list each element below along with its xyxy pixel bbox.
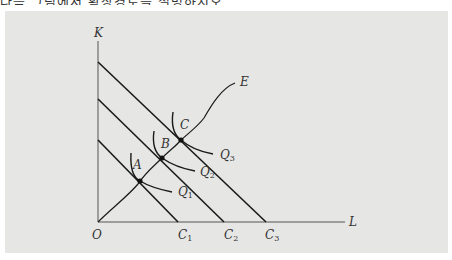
isoquant-q3 — [172, 112, 213, 154]
isocost-label-c3: C3 — [265, 229, 279, 243]
k-axis-label: K — [94, 27, 103, 39]
point-label-c: C — [180, 119, 189, 131]
isocost-label-c2: C2 — [224, 229, 238, 243]
expansion-path-label-e: E — [240, 76, 249, 88]
tangency-point-c — [178, 137, 183, 142]
isoquant-label-q3: Q3 — [220, 149, 235, 163]
isoquant-q2 — [153, 131, 195, 171]
point-label-a: A — [133, 159, 142, 171]
l-axis-label: L — [349, 216, 357, 228]
origin-label: O — [92, 229, 102, 241]
tangency-point-b — [159, 155, 164, 160]
isoquant-label-q2: Q2 — [200, 166, 215, 180]
isoquant-label-q1: Q1 — [178, 186, 193, 200]
point-label-b: B — [161, 138, 170, 150]
isocost-label-c1: C1 — [178, 229, 192, 243]
expansion-path-diagram — [0, 0, 452, 260]
expansion-path-e — [98, 83, 235, 222]
tangency-point-a — [137, 178, 142, 183]
